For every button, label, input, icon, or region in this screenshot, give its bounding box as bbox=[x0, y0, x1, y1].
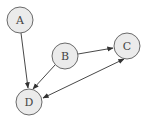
graph-diagram: A B C D bbox=[0, 0, 151, 125]
node-a: A bbox=[7, 7, 33, 33]
node-b: B bbox=[52, 43, 78, 69]
node-c-label: C bbox=[123, 40, 131, 53]
edge-a-to-d bbox=[21, 33, 28, 88]
node-a-label: A bbox=[15, 14, 25, 27]
node-b-label: B bbox=[61, 50, 69, 63]
node-d-label: D bbox=[25, 96, 34, 109]
node-d: D bbox=[16, 89, 42, 115]
node-c: C bbox=[114, 33, 140, 59]
edge-b-to-d bbox=[33, 65, 55, 89]
edge-b-to-c bbox=[78, 48, 113, 54]
